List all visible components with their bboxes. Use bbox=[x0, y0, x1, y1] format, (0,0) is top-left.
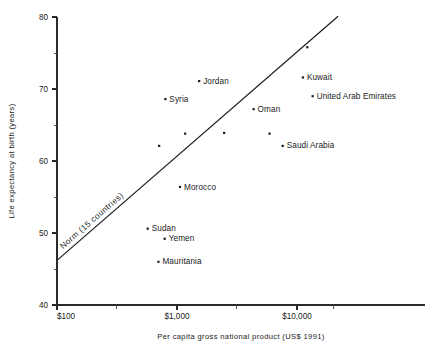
data-point-unlabeled-13 bbox=[158, 145, 160, 147]
x-axis-title: Per capita gross national product (US$ 1… bbox=[157, 332, 324, 341]
data-point-label-syria: Syria bbox=[169, 95, 189, 104]
data-point-oman bbox=[253, 108, 255, 110]
data-point-label-sudan: Sudan bbox=[152, 224, 177, 233]
norm-trendline-group: Norm (15 countries) bbox=[57, 16, 338, 260]
data-point-label-yemen: Yemen bbox=[169, 234, 195, 243]
x-tick-label-1000: $1,000 bbox=[164, 312, 189, 321]
data-point-jordan bbox=[198, 80, 200, 82]
y-axis-ticks: 4050607080 bbox=[39, 13, 57, 310]
data-point-unlabeled-11 bbox=[223, 132, 225, 134]
plot-area: 4050607080 $100$1,000$10,000 Norm (15 co… bbox=[0, 0, 438, 352]
data-point-unlabeled-12 bbox=[184, 133, 186, 135]
data-point-mauritania bbox=[157, 261, 159, 263]
data-point-kuwait bbox=[302, 76, 304, 78]
data-point-label-kuwait: Kuwait bbox=[307, 73, 333, 82]
data-point-label-saudi-arabia: Saudi Arabia bbox=[287, 141, 335, 150]
y-axis-title: Life expectancy at birth (years) bbox=[7, 103, 16, 218]
y-tick-label-70: 70 bbox=[39, 85, 49, 94]
norm-trendline-label: Norm (15 countries) bbox=[58, 191, 125, 251]
data-point-label-jordan: Jordan bbox=[203, 77, 229, 86]
y-tick-label-50: 50 bbox=[39, 229, 49, 238]
axes bbox=[57, 17, 425, 305]
data-point-morocco bbox=[179, 186, 181, 188]
x-axis-ticks: $100$1,000$10,000 bbox=[57, 305, 333, 321]
data-point-sudan bbox=[147, 228, 149, 230]
y-tick-label-60: 60 bbox=[39, 157, 49, 166]
data-point-label-oman: Oman bbox=[258, 105, 281, 114]
data-point-label-mauritania: Mauritania bbox=[162, 257, 202, 266]
scatter-chart: 4050607080 $100$1,000$10,000 Norm (15 co… bbox=[0, 0, 438, 352]
data-point-label-morocco: Morocco bbox=[184, 183, 216, 192]
data-point-unlabeled-10 bbox=[306, 46, 308, 48]
data-point-syria bbox=[164, 98, 166, 100]
data-point-unlabeled-14 bbox=[268, 133, 270, 135]
data-point-label-united-arab-emirates: United Arab Emirates bbox=[317, 92, 396, 101]
data-point-united-arab-emirates bbox=[312, 95, 314, 97]
data-point-yemen bbox=[164, 238, 166, 240]
x-tick-label-10000: $10,000 bbox=[282, 312, 312, 321]
norm-trendline bbox=[57, 16, 338, 260]
data-points-group: KuwaitUnited Arab EmiratesJordanSyriaOma… bbox=[147, 46, 396, 266]
data-point-saudi-arabia bbox=[282, 145, 284, 147]
y-tick-label-80: 80 bbox=[39, 13, 49, 22]
x-tick-label-100: $100 bbox=[57, 312, 76, 321]
y-tick-label-40: 40 bbox=[39, 301, 49, 310]
